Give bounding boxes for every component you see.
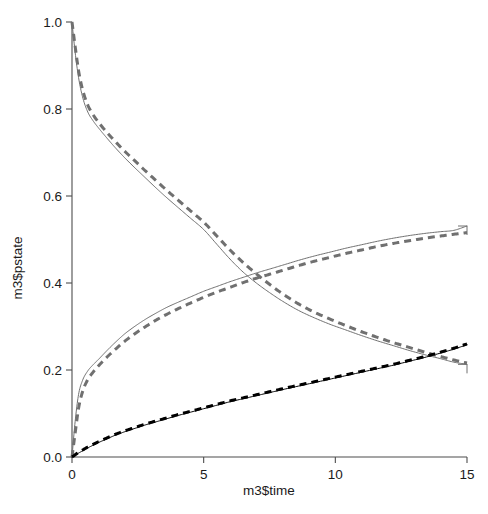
y-tick-label: 0.0 [43, 450, 62, 465]
x-axis-title: m3$time [243, 483, 295, 498]
y-tick-label: 1.0 [43, 15, 62, 30]
plot-background [0, 0, 488, 514]
y-tick-label: 0.4 [43, 276, 62, 291]
y-tick-label: 0.2 [43, 363, 62, 378]
x-tick-label: 0 [68, 467, 76, 482]
chart-canvas: 0.00.20.40.60.81.0 051015 m3$time m3$pst… [0, 0, 488, 514]
chart-figure: 0.00.20.40.60.81.0 051015 m3$time m3$pst… [0, 0, 488, 514]
x-tick-label: 5 [200, 467, 208, 482]
x-tick-label: 15 [459, 467, 474, 482]
y-tick-label: 0.6 [43, 189, 62, 204]
y-axis-title: m3$pstate [10, 236, 25, 299]
x-tick-label: 10 [328, 467, 343, 482]
y-tick-label: 0.8 [43, 102, 62, 117]
